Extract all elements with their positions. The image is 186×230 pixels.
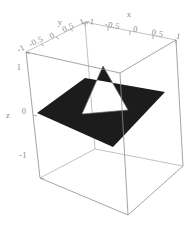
z-axis-title: z [6, 110, 10, 120]
tick-z--1 [40, 178, 44, 179]
surface-plane-z0 [37, 66, 165, 147]
z-tick-label-1: 1 [17, 62, 22, 72]
box-edge-right-vertical [176, 40, 183, 166]
y-axis-tick-labels: -1 -0.5 0 0.5 1 [15, 16, 86, 55]
x-axis-title: x [127, 9, 132, 19]
box-edge-top-front [26, 40, 176, 73]
y-tick-label--1: -1 [15, 42, 26, 54]
x-axis-tick-labels: -1 -0.5 0 0.5 1 [86, 15, 182, 41]
y-tick-label--0.5: -0.5 [27, 34, 45, 49]
z-axis-tick-labels: 1 0 -1 [17, 62, 27, 160]
z-tick-label-0: 0 [22, 106, 27, 116]
plot-3d-container: -1 -0.5 0 0.5 1 -1 -0.5 0 0.5 1 1 0 -1 x… [0, 0, 186, 230]
x-tick-label--1: -1 [86, 15, 96, 26]
filled-square-with-triangular-hole [37, 66, 165, 147]
bounding-box-back-edges [26, 22, 183, 178]
box-edge-bottom-back-right [95, 149, 183, 166]
tick-y-0 [56, 37, 59, 39]
x-tick-label-1: 1 [175, 31, 181, 42]
z-tick-label--1: -1 [19, 150, 27, 160]
box-edge-bottom-front [40, 166, 183, 215]
tick-y--0.5 [41, 44, 44, 46]
y-tick-label-0.5: 0.5 [60, 20, 75, 34]
tick-z-0 [33, 115, 37, 116]
y-axis-title: y [58, 17, 63, 27]
x-tick-label--0.5: -0.5 [104, 19, 121, 32]
tick-z-1 [26, 52, 30, 53]
y-tick-label-0: 0 [48, 30, 56, 41]
box-edge-bottom-back-left [40, 149, 95, 178]
plot-canvas: -1 -0.5 0 0.5 1 -1 -0.5 0 0.5 1 1 0 -1 x… [0, 0, 186, 230]
